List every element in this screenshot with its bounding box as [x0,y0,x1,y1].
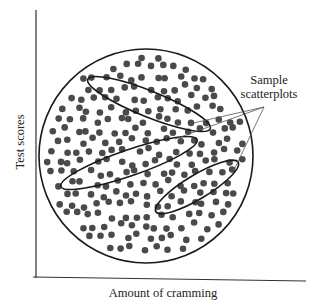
data-point [155,55,162,62]
data-point [170,63,177,70]
data-point [64,160,71,167]
data-point [174,161,181,168]
data-point [69,203,76,210]
data-point [81,204,88,211]
data-point [93,200,100,207]
data-point [198,141,205,148]
data-point [178,198,185,205]
data-point [206,169,213,176]
data-point [200,76,207,83]
data-point [61,124,68,131]
data-point [161,88,168,95]
data-point [73,150,80,157]
data-point [55,138,62,145]
data-point [202,157,209,164]
data-point [194,85,201,92]
data-point [80,225,87,232]
data-point [59,106,66,113]
data-point [164,116,171,123]
data-point [169,169,176,176]
data-point [197,151,204,158]
data-point [122,130,129,137]
data-point [169,214,176,221]
data-point [140,119,147,126]
data-point [102,140,109,147]
data-point [171,87,178,94]
data-point [191,75,198,82]
data-point [80,75,87,82]
data-point [145,145,152,152]
data-point [145,130,152,137]
data-point [161,171,168,178]
x-axis-label: Amount of cramming [109,286,218,300]
data-point [78,97,85,104]
data-point [113,96,120,103]
data-point [211,156,218,163]
data-point [155,75,162,82]
data-point [156,113,163,120]
data-point [216,140,223,147]
data-point [76,178,83,185]
data-point [101,224,108,231]
data-point [138,74,145,81]
data-point [123,109,130,116]
data-point [132,124,139,131]
data-point [83,109,90,116]
data-point [121,84,128,91]
data-point [144,193,151,200]
data-point [140,97,147,104]
data-point [208,212,215,219]
data-point [89,134,96,141]
data-point [173,149,180,156]
data-point [181,187,188,194]
data-point [74,209,81,216]
data-point [157,188,164,195]
data-point [105,116,112,123]
data-point [116,139,123,146]
data-point [152,181,159,188]
data-point [89,225,96,232]
data-point [142,247,149,254]
data-point [165,177,172,184]
data-point [131,97,138,104]
data-point [156,152,163,159]
data-point [198,200,205,207]
data-point [109,215,116,222]
data-point [221,146,228,153]
data-point [88,167,95,174]
data-point [69,178,76,185]
data-point [215,221,222,228]
data-point [123,192,130,199]
data-point [80,141,87,148]
data-point [133,191,140,198]
data-point [152,157,159,164]
data-point [55,115,62,122]
population-circle [39,49,253,263]
data-point [84,211,91,218]
data-point [72,190,79,197]
data-point [63,209,70,216]
data-point [182,81,189,88]
data-point [196,210,203,217]
data-point [164,203,171,210]
data-point [202,94,209,101]
data-point [119,115,126,122]
data-point [167,232,174,239]
data-point [56,201,63,208]
data-point [153,243,160,250]
data-point [151,225,158,232]
data-point [158,212,165,219]
data-point [200,180,207,187]
annotation-line2: scatterplots [241,87,298,101]
data-point [50,128,57,135]
data-point [183,237,190,244]
data-point [197,189,204,196]
data-point [44,159,51,166]
data-point [186,211,193,218]
data-point [163,225,170,232]
data-point [77,156,84,163]
data-point [117,73,124,80]
data-point [160,62,167,69]
data-point [188,92,195,99]
data-point [98,172,105,179]
